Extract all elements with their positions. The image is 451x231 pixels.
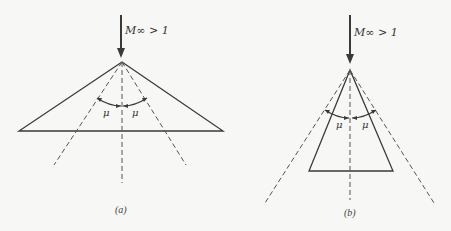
wedge-body [309,70,393,171]
figure-a: M∞ > 1 μ μ (a) [19,15,223,216]
mu-label-right: μ [362,119,369,130]
mach-line-right [350,70,434,203]
mach-line-left [54,62,122,165]
freestream-arrow-icon [117,15,125,58]
mu-label-right: μ [132,107,139,118]
mu-label-left: μ [336,119,343,130]
caption-a: (a) [115,204,127,216]
flow-label: M∞ > 1 [353,26,398,39]
caption-b: (b) [344,207,356,219]
wedge-body [19,62,223,131]
mu-label-left: μ [103,107,110,118]
mach-line-left [265,70,350,203]
flow-label: M∞ > 1 [124,24,169,37]
diagram-canvas: M∞ > 1 μ μ (a) M∞ > 1 [0,0,451,231]
figure-b: M∞ > 1 μ μ (b) [265,15,434,219]
freestream-arrow-icon [346,15,354,64]
